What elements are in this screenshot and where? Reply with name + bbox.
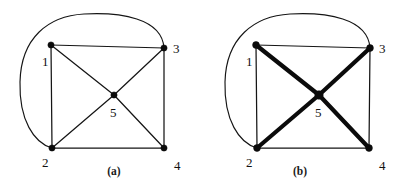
- graph-vertex-1: [48, 42, 54, 48]
- graph-edge-v5-v3: [114, 48, 164, 95]
- graph-edge-v5-v3: [319, 48, 370, 95]
- graph-vertex-5: [315, 91, 323, 99]
- figure-container: 12345(a)12345(b): [0, 0, 401, 186]
- graph-vertex-label-3: 3: [173, 41, 180, 56]
- graph-vertex-3: [161, 45, 167, 51]
- graph-vertex-2: [254, 145, 261, 152]
- graph-edge-v5-v4: [114, 95, 164, 148]
- graph-edge-v3-v4: [369, 48, 370, 148]
- graph-vertex-label-1: 1: [42, 54, 49, 69]
- graph-vertex-3: [367, 45, 374, 52]
- graph-vertex-label-2: 2: [42, 155, 49, 170]
- panel-b: 12345(b): [225, 14, 386, 178]
- graph-vertex-label-3: 3: [379, 41, 386, 56]
- graph-edge-v1-v2: [51, 45, 52, 148]
- graph-edge-v1-v3: [256, 45, 370, 48]
- graph-edge-v1-v5: [51, 45, 114, 95]
- graph-vertex-label-5: 5: [315, 105, 322, 120]
- panel-caption-panel-b: (b): [293, 165, 307, 178]
- graph-edge-v1-v5: [256, 45, 319, 95]
- graph-vertex-4: [366, 145, 373, 152]
- graph-figure-svg: 12345(a)12345(b): [0, 0, 401, 186]
- graph-vertex-1: [253, 42, 260, 49]
- graph-vertex-label-5: 5: [110, 105, 117, 120]
- graph-vertex-label-4: 4: [174, 158, 181, 173]
- panel-caption-panel-a: (a): [107, 165, 121, 178]
- graph-edge-v5-v4: [319, 95, 369, 148]
- graph-edge-v1-v2: [256, 45, 257, 148]
- graph-edge-curved-v3-v2: [20, 14, 164, 148]
- graph-vertex-2: [49, 145, 55, 151]
- graph-vertex-label-2: 2: [246, 155, 253, 170]
- graph-vertex-5: [111, 92, 117, 98]
- graph-edge-v2-v5: [257, 95, 319, 148]
- graph-vertex-4: [161, 145, 167, 151]
- graph-vertex-label-1: 1: [246, 54, 253, 69]
- graph-edge-v1-v3: [51, 45, 164, 48]
- graph-edge-v2-v5: [52, 95, 114, 148]
- panel-a: 12345(a): [20, 14, 181, 178]
- graph-vertex-label-4: 4: [379, 158, 386, 173]
